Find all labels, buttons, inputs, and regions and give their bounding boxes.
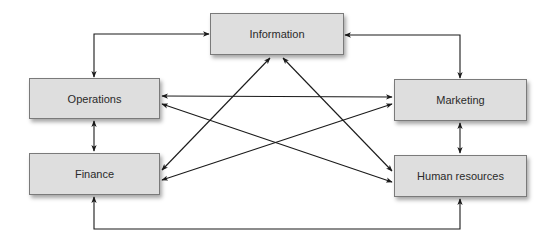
node-label: Information xyxy=(249,28,304,40)
edge-operations-marketing xyxy=(162,96,392,97)
edge-information-human-resources xyxy=(283,58,392,171)
node-marketing: Marketing xyxy=(394,79,527,121)
node-human-resources: Human resources xyxy=(394,155,527,197)
node-information: Information xyxy=(210,13,344,55)
node-label: Finance xyxy=(75,168,114,180)
node-label: Human resources xyxy=(417,170,504,182)
node-label: Operations xyxy=(68,93,122,105)
edge-finance-human-resources xyxy=(94,197,460,229)
edge-operations-information xyxy=(94,34,209,77)
edge-information-marketing xyxy=(345,35,460,78)
node-operations: Operations xyxy=(29,78,160,119)
node-label: Marketing xyxy=(436,94,484,106)
node-finance: Finance xyxy=(29,153,160,195)
edge-finance-information xyxy=(162,58,270,170)
